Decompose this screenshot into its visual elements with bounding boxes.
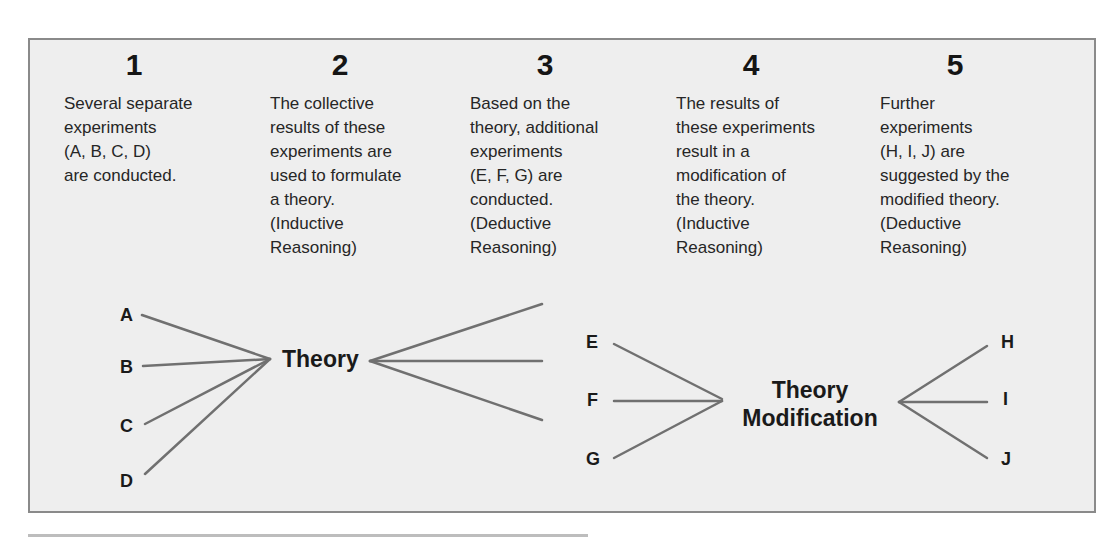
step-description: Based on the theory, additional experime… bbox=[470, 92, 598, 260]
line-mod-h bbox=[899, 346, 987, 402]
node-experiment-h: H bbox=[1001, 332, 1014, 353]
node-experiment-g: G bbox=[586, 449, 600, 470]
step-number: 4 bbox=[676, 48, 826, 82]
step-description: Several separate experiments (A, B, C, D… bbox=[64, 92, 193, 188]
step-number: 5 bbox=[880, 48, 1030, 82]
node-experiment-f: F bbox=[587, 390, 598, 411]
step-description: Further experiments (H, I, J) are sugges… bbox=[880, 92, 1009, 260]
node-theory-modification: Theory Modification bbox=[730, 376, 890, 432]
line-b-theory bbox=[143, 359, 270, 366]
line-a-theory bbox=[142, 315, 270, 359]
node-experiment-c: C bbox=[120, 416, 133, 437]
line-theory-g bbox=[370, 361, 542, 420]
node-experiment-a: A bbox=[120, 305, 133, 326]
step-number: 1 bbox=[64, 48, 204, 82]
line-mod-j bbox=[899, 402, 987, 458]
line-d-theory bbox=[145, 359, 270, 474]
step-description: The results of these experiments result … bbox=[676, 92, 815, 260]
node-theory-modification-line1: Theory bbox=[730, 376, 890, 404]
node-experiment-e: E bbox=[586, 332, 598, 353]
node-theory-modification-line2: Modification bbox=[730, 404, 890, 432]
line-c-theory bbox=[145, 359, 270, 424]
diagram-panel: 1 Several separate experiments (A, B, C,… bbox=[28, 38, 1096, 513]
cropped-caption bbox=[28, 524, 628, 538]
node-experiment-d: D bbox=[120, 471, 133, 492]
line-e-mod bbox=[614, 344, 722, 399]
node-experiment-j: J bbox=[1001, 449, 1011, 470]
node-experiment-b: B bbox=[120, 357, 133, 378]
line-g-mod bbox=[614, 401, 722, 458]
step-number: 3 bbox=[470, 48, 620, 82]
node-theory: Theory bbox=[282, 345, 359, 373]
step-number: 2 bbox=[270, 48, 410, 82]
node-experiment-i: I bbox=[1003, 389, 1008, 410]
line-theory-e bbox=[370, 304, 542, 361]
step-description: The collective results of these experime… bbox=[270, 92, 401, 260]
